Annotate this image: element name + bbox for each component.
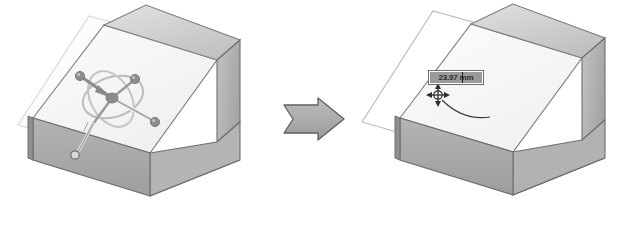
dimension-value-highlight[interactable]: 23.97 mm — [430, 72, 482, 83]
manipulator-hub[interactable] — [106, 93, 118, 103]
before-3d-scene — [0, 0, 280, 240]
before-stage — [0, 0, 280, 240]
transition-arrow — [280, 0, 350, 240]
text-caret — [462, 72, 463, 83]
after-state — [350, 0, 630, 240]
handle-sphere-origin[interactable] — [71, 151, 79, 159]
handle-sphere-y[interactable] — [130, 74, 139, 83]
dimension-value-text: 23.97 mm — [439, 73, 474, 82]
left-face — [28, 116, 33, 160]
handle-sphere-x[interactable] — [75, 71, 84, 80]
offset-dimension-input[interactable]: 23.97 mm — [428, 70, 484, 85]
left-face — [395, 116, 400, 160]
handle-sphere-z[interactable] — [150, 117, 159, 126]
after-stage — [350, 0, 630, 240]
arrow-svg — [280, 0, 350, 240]
after-3d-scene — [350, 0, 630, 240]
before-state — [0, 0, 280, 240]
right-arrow-icon — [284, 98, 344, 140]
cad-illustration-figure: 23.97 mm — [0, 0, 630, 240]
